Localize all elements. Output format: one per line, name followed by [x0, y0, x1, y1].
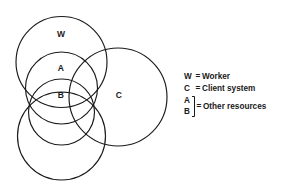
legend-key-b: B — [184, 106, 191, 117]
legend-equals-1: = — [194, 84, 202, 93]
label-w: W — [57, 29, 65, 39]
legend-key-c: C — [184, 84, 194, 93]
circle-b — [29, 79, 95, 145]
legend-equals-0: = — [194, 72, 202, 81]
legend-text-worker: Worker — [202, 72, 230, 81]
legend-key-a: A — [184, 95, 191, 106]
circle-other-resources — [18, 92, 106, 180]
legend-keys-ab: A B — [184, 95, 191, 117]
legend-key-w: W — [184, 72, 194, 81]
label-c: C — [116, 90, 122, 100]
diagram-canvas: W A B C W = Worker C = Client system A B… — [0, 0, 283, 187]
legend-text-other-resources: Other resources — [203, 102, 266, 111]
legend-row-client-system: C = Client system — [184, 83, 282, 95]
legend-equals-2: = — [195, 102, 203, 111]
legend-row-worker: W = Worker — [184, 71, 282, 83]
legend-row-other-resources: A B = Other resources — [184, 95, 282, 118]
label-b: B — [58, 90, 64, 100]
label-a: A — [58, 63, 64, 73]
legend: W = Worker C = Client system A B = Other… — [184, 71, 282, 118]
legend-text-client-system: Client system — [202, 84, 255, 93]
